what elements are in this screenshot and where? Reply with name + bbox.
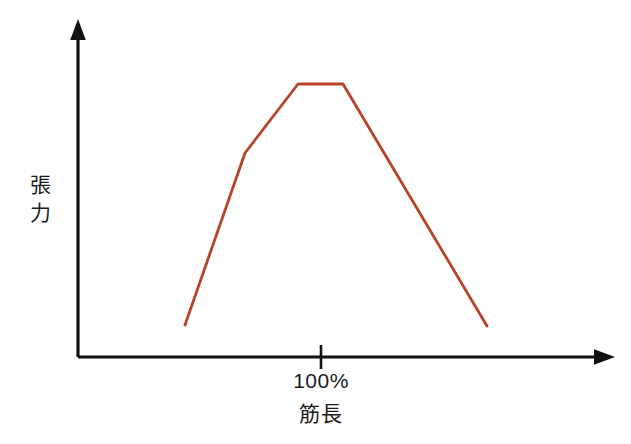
x-axis-group <box>78 349 615 365</box>
y-axis-title-char-2: 力 <box>30 201 51 224</box>
x-axis-arrowhead-icon <box>594 349 615 365</box>
x-axis-title: 筋長 <box>299 402 343 425</box>
length-tension-curve <box>185 84 487 326</box>
y-axis-title-char-1: 張 <box>30 173 51 196</box>
y-axis-title-group: 張 力 <box>30 173 51 224</box>
length-tension-chart-figure: 100% 筋長 張 力 <box>0 0 631 444</box>
chart-canvas: 100% 筋長 張 力 <box>0 0 631 444</box>
y-axis-group <box>70 19 86 357</box>
y-axis-arrowhead-icon <box>70 19 86 40</box>
x-tick-label-100-percent: 100% <box>293 369 349 392</box>
